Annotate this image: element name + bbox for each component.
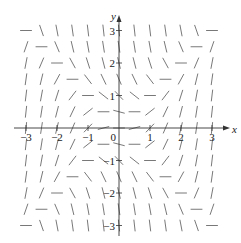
slope-segment	[24, 42, 28, 52]
slope-segment	[147, 172, 154, 181]
slope-segment	[132, 172, 137, 182]
slope-segment	[165, 25, 167, 36]
slope-segment	[56, 25, 58, 36]
slope-segment	[163, 107, 168, 117]
slope-segment	[162, 156, 169, 165]
slope-segment	[69, 156, 76, 165]
slope-segment	[70, 107, 75, 117]
slope-segment	[211, 58, 213, 69]
y-tick-label: 3	[110, 25, 116, 37]
slope-segment	[130, 157, 139, 164]
x-tick-label: 0	[111, 131, 117, 143]
slope-segment	[162, 91, 169, 100]
slope-segment	[103, 25, 104, 36]
slope-segment	[210, 204, 214, 214]
slope-segment	[70, 58, 75, 68]
slope-segment	[87, 25, 88, 36]
slope-segment	[180, 25, 182, 36]
slope-segment	[86, 188, 89, 198]
slope-segment	[134, 41, 136, 52]
slope-segment	[211, 106, 212, 117]
slope-segment	[211, 74, 213, 85]
axes: x y	[14, 10, 237, 236]
slope-segment	[55, 42, 59, 52]
slope-segment	[195, 171, 198, 182]
slope-segment	[133, 188, 136, 199]
slope-segment	[87, 220, 88, 231]
slope-segment	[56, 220, 58, 231]
slope-segment	[164, 204, 167, 215]
slope-segment	[41, 106, 43, 117]
slope-segment	[86, 58, 89, 68]
slope-segment	[196, 90, 198, 101]
slope-segment	[99, 92, 108, 99]
y-tick-label: −3	[103, 220, 115, 232]
slope-segment	[194, 58, 198, 68]
slope-segment	[40, 25, 44, 35]
slope-segment	[210, 42, 214, 52]
slope-segment	[195, 220, 199, 230]
slope-segment	[55, 204, 59, 214]
slope-segment	[25, 74, 27, 85]
y-tick-label: 1	[110, 90, 116, 102]
x-tick-label: 2	[178, 131, 184, 143]
slope-segment	[40, 74, 43, 85]
slope-segment	[25, 171, 27, 182]
slope-field-chart: x y −3−2−10123−3−2−1123	[0, 0, 241, 243]
slope-segment	[211, 171, 213, 182]
slope-segment	[163, 58, 168, 68]
slope-segment	[211, 188, 213, 199]
slope-segment	[71, 41, 74, 52]
slope-segment	[195, 74, 198, 85]
slope-segment	[211, 155, 212, 166]
slope-segment	[164, 41, 167, 52]
slope-segment	[179, 90, 182, 100]
slope-segment	[39, 58, 43, 68]
slope-segment	[40, 220, 44, 230]
slope-segment	[25, 58, 27, 69]
slope-segment	[133, 58, 136, 69]
slope-segment	[101, 74, 106, 84]
slope-segment	[70, 188, 75, 198]
slope-segment	[163, 188, 168, 198]
slope-segment	[196, 139, 198, 150]
slope-segment	[179, 204, 183, 214]
x-tick-label: −3	[20, 131, 32, 143]
slope-segment	[25, 90, 26, 101]
slope-segment	[178, 172, 183, 182]
slope-segment	[180, 106, 183, 117]
slope-segment	[103, 204, 105, 215]
slope-segment	[25, 155, 26, 166]
y-tick-label: −2	[103, 187, 115, 199]
slope-segment	[41, 155, 43, 166]
slope-segment	[165, 220, 167, 231]
slope-segment	[39, 188, 43, 198]
x-tick-label: −2	[51, 131, 63, 143]
slope-segment	[54, 74, 59, 84]
x-axis-arrow-icon	[223, 126, 230, 131]
slope-segment	[70, 139, 75, 149]
slope-segment	[87, 204, 89, 215]
slope-segment	[149, 41, 151, 52]
slope-segment	[55, 90, 58, 100]
slope-segment	[180, 220, 182, 231]
y-tick-label: −1	[103, 155, 115, 167]
slope-segment	[178, 74, 183, 84]
slope-segment	[147, 75, 154, 84]
slope-segment	[72, 25, 74, 36]
slope-segment	[41, 139, 43, 150]
slope-segment	[149, 25, 150, 36]
slope-segment	[195, 25, 199, 35]
slope-segment	[84, 108, 93, 115]
slope-segment	[179, 42, 183, 52]
slope-segment	[211, 90, 212, 101]
y-tick-label: 2	[110, 57, 116, 69]
slope-segment	[134, 204, 136, 215]
slope-segment	[132, 74, 137, 84]
slope-segment	[72, 220, 74, 231]
slope-segment	[148, 58, 151, 68]
y-axis-arrow-icon	[117, 15, 122, 22]
slope-segment	[196, 106, 198, 117]
slope-segment	[103, 41, 105, 52]
slope-segment	[163, 139, 168, 149]
